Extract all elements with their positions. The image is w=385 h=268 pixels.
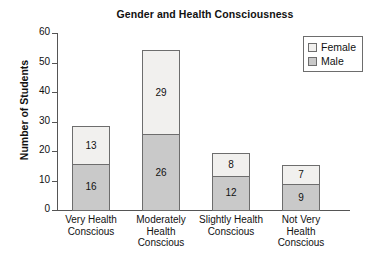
- y-tick-label: 60: [24, 26, 50, 37]
- bar-value-label: 26: [155, 168, 166, 178]
- bar-value-label: 16: [85, 182, 96, 192]
- y-tick-label: 20: [24, 144, 50, 155]
- bar-group[interactable]: 79: [282, 165, 320, 210]
- bar-value-label: 12: [225, 188, 236, 198]
- y-tick-mark: [52, 210, 57, 211]
- bar-value-label: 9: [298, 193, 304, 203]
- bar-group[interactable]: 1316: [72, 126, 110, 210]
- legend: FemaleMale: [303, 36, 363, 72]
- bar-value-label: 29: [155, 88, 166, 98]
- bar-segment-male[interactable]: 9: [282, 184, 320, 211]
- legend-label: Male: [321, 55, 344, 67]
- y-tick-mark: [52, 92, 57, 93]
- x-axis-label-line: Conscious: [114, 237, 208, 249]
- bar-value-label: 7: [298, 170, 304, 180]
- x-axis-label-line: Not Very: [254, 214, 348, 226]
- x-axis-label-line: Health: [254, 226, 348, 238]
- y-axis-line: [57, 33, 58, 210]
- y-tick-mark: [52, 181, 57, 182]
- legend-label: Female: [321, 41, 356, 53]
- y-tick-mark: [52, 63, 57, 64]
- bar-segment-male[interactable]: 16: [72, 164, 110, 211]
- bar-group[interactable]: 2926: [142, 50, 180, 210]
- bar-segment-female[interactable]: 13: [72, 126, 110, 164]
- chart-title: Gender and Health Consciousness: [60, 8, 350, 20]
- x-axis-label: Not VeryHealthConscious: [254, 214, 348, 249]
- legend-item[interactable]: Male: [308, 54, 356, 68]
- y-tick-mark: [52, 151, 57, 152]
- bar-chart: Gender and Health Consciousness Number o…: [0, 0, 385, 268]
- y-tick-label: 10: [24, 174, 50, 185]
- bar-value-label: 13: [85, 141, 96, 151]
- y-tick-label: 30: [24, 115, 50, 126]
- y-tick-mark: [52, 33, 57, 34]
- bar-segment-female[interactable]: 29: [142, 50, 180, 136]
- bar-value-label: 8: [228, 160, 234, 170]
- y-tick-label: 50: [24, 56, 50, 67]
- y-tick-label: 0: [24, 203, 50, 214]
- bar-segment-male[interactable]: 12: [212, 176, 250, 211]
- y-tick-label: 40: [24, 85, 50, 96]
- female-swatch-icon: [308, 43, 317, 52]
- bar-segment-male[interactable]: 26: [142, 134, 180, 211]
- bar-group[interactable]: 812: [212, 153, 250, 210]
- x-axis-label-line: Conscious: [254, 237, 348, 249]
- y-tick-mark: [52, 122, 57, 123]
- male-swatch-icon: [308, 57, 317, 66]
- bar-segment-female[interactable]: 7: [282, 165, 320, 186]
- legend-item[interactable]: Female: [308, 40, 356, 54]
- bar-segment-female[interactable]: 8: [212, 153, 250, 177]
